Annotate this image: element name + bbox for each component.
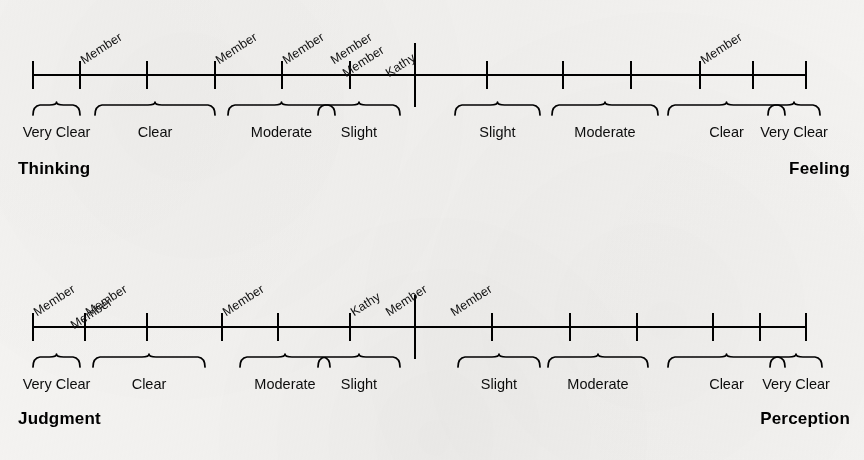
- category-brace: [33, 102, 80, 115]
- category-brace: [93, 354, 205, 367]
- category-label: Moderate: [574, 125, 635, 140]
- category-label: Slight: [481, 377, 517, 392]
- category-brace: [768, 102, 820, 115]
- pole-label-right-perception: Perception: [760, 410, 850, 427]
- category-brace: [240, 354, 330, 367]
- category-label: Slight: [341, 377, 377, 392]
- preference-clarity-figure: MemberMemberMemberMemberMemberKathyMembe…: [0, 0, 864, 460]
- category-brace: [770, 354, 822, 367]
- scale-thinking-feeling: MemberMemberMemberMemberMemberKathyMembe…: [0, 0, 864, 200]
- category-label: Clear: [709, 125, 744, 140]
- category-label: Very Clear: [760, 125, 828, 140]
- category-label: Slight: [479, 125, 515, 140]
- category-label: Very Clear: [762, 377, 830, 392]
- category-brace: [455, 102, 540, 115]
- category-brace: [33, 354, 80, 367]
- category-label: Moderate: [254, 377, 315, 392]
- category-brace: [552, 102, 658, 115]
- category-label: Very Clear: [23, 377, 91, 392]
- category-label: Slight: [341, 125, 377, 140]
- pole-label-left-thinking: Thinking: [18, 160, 90, 177]
- category-brace: [95, 102, 215, 115]
- category-brace: [668, 354, 785, 367]
- category-label: Moderate: [567, 377, 628, 392]
- category-label: Moderate: [251, 125, 312, 140]
- category-label: Clear: [709, 377, 744, 392]
- pole-label-right-feeling: Feeling: [789, 160, 850, 177]
- scale-judgment-perception: MemberMemberMemberMemberKathyMemberMembe…: [0, 252, 864, 460]
- category-label: Clear: [132, 377, 167, 392]
- category-brace: [548, 354, 648, 367]
- category-label: Clear: [138, 125, 173, 140]
- category-brace: [458, 354, 540, 367]
- category-brace: [318, 102, 400, 115]
- pole-label-left-judgment: Judgment: [18, 410, 101, 427]
- category-label: Very Clear: [23, 125, 91, 140]
